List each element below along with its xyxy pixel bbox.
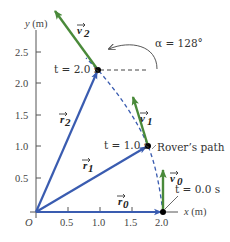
rover-path-label: Rover’s path — [157, 141, 225, 153]
rover-path — [86, 58, 163, 212]
point-t0 — [160, 209, 166, 215]
y-tick-label: 1.5 — [15, 110, 28, 121]
y-tick-label: 0.5 — [15, 173, 28, 184]
angle-arc — [109, 45, 157, 69]
svg-text:1: 1 — [88, 162, 94, 174]
y-tick-label: 2.0 — [15, 78, 28, 89]
y-tick-label: 2.5 — [15, 47, 28, 58]
svg-text:0: 0 — [177, 175, 183, 187]
position-vector-r1 — [36, 147, 146, 212]
svg-text:2: 2 — [64, 116, 71, 128]
svg-text:v: v — [170, 172, 175, 184]
label-r2: r2 — [59, 112, 71, 128]
svg-text:0: 0 — [123, 198, 129, 210]
x-axis-label: x (m) — [183, 206, 207, 218]
angle-label: α = 128° — [155, 37, 203, 49]
label-r0: r0 — [117, 194, 129, 210]
x-tick-label: 0.5 — [60, 217, 73, 228]
time-label-t2: t = 2.0 s — [54, 63, 99, 75]
label-v0: v0 — [170, 171, 183, 187]
rover-diagram: 0.5 1.0 1.5 2.0 2.5 0.5 1.0 1.5 2.0 O y … — [0, 0, 230, 242]
velocity-vector-v2 — [55, 11, 98, 70]
time-label-t1: t = 1.0 s — [104, 139, 149, 151]
svg-text:2: 2 — [83, 27, 90, 39]
origin-label: O — [25, 217, 33, 228]
position-vector-r2 — [36, 72, 97, 212]
label-r1: r1 — [82, 158, 94, 174]
x-tick-label: 1.5 — [124, 217, 137, 228]
x-tick-label: 1.0 — [92, 217, 105, 228]
svg-text:v: v — [140, 112, 145, 124]
y-axis-label: y (m) — [24, 18, 48, 30]
svg-text:v: v — [77, 24, 82, 36]
label-v2: v2 — [77, 23, 90, 39]
axes — [30, 30, 178, 218]
leader-line-t0 — [165, 196, 178, 209]
y-tick-label: 1.0 — [15, 141, 28, 152]
x-tick-label: 2.0 — [155, 217, 168, 228]
svg-text:1: 1 — [147, 115, 153, 127]
leader-line-path — [152, 145, 156, 149]
